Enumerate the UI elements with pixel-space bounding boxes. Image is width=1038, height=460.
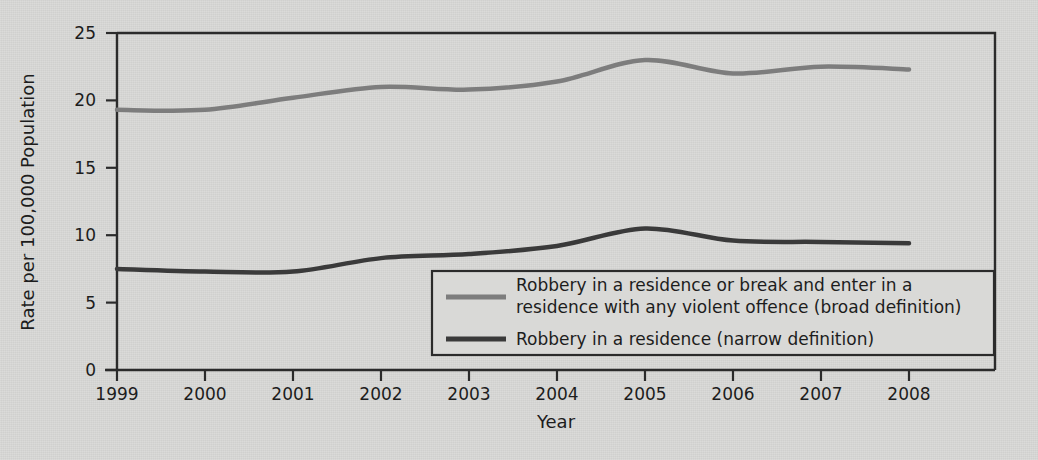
x-tick-label-1999: 1999	[95, 384, 138, 404]
series-line-narrow-definition	[117, 228, 909, 272]
x-axis-tick-labels: 1999 2000 2001 2002 2003 2004 2005 2006 …	[95, 384, 930, 404]
x-axis-title: Year	[536, 411, 576, 432]
x-tick-label-2001: 2001	[271, 384, 314, 404]
y-tick-label-20: 20	[74, 90, 96, 110]
x-tick-label-2006: 2006	[711, 384, 754, 404]
y-tick-label-5: 5	[85, 293, 96, 313]
chart-figure: Rate per 100,000 Population 0 5 10 15 20…	[0, 0, 1038, 460]
x-tick-label-2000: 2000	[183, 384, 226, 404]
y-tick-label-25: 25	[74, 23, 96, 43]
series-line-broad-definition	[117, 60, 909, 111]
y-axis-title: Rate per 100,000 Population	[17, 73, 38, 330]
x-tick-label-2004: 2004	[535, 384, 578, 404]
x-axis-ticks	[117, 370, 909, 381]
y-tick-label-0: 0	[85, 360, 96, 380]
legend-label-broad-definition-line2: residence with any violent offence (broa…	[516, 297, 962, 317]
x-tick-label-2005: 2005	[623, 384, 666, 404]
x-tick-label-2007: 2007	[799, 384, 842, 404]
y-tick-label-10: 10	[74, 225, 96, 245]
x-tick-label-2002: 2002	[359, 384, 402, 404]
x-tick-label-2003: 2003	[447, 384, 490, 404]
line-chart: Rate per 100,000 Population 0 5 10 15 20…	[0, 0, 1038, 460]
y-axis-ticks	[106, 33, 117, 370]
y-axis-tick-labels: 0 5 10 15 20 25	[74, 23, 96, 380]
x-tick-label-2008: 2008	[887, 384, 930, 404]
y-tick-label-15: 15	[74, 158, 96, 178]
legend-label-broad-definition-line1: Robbery in a residence or break and ente…	[516, 275, 912, 295]
chart-legend: Robbery in a residence or break and ente…	[432, 271, 994, 355]
legend-label-narrow-definition: Robbery in a residence (narrow definitio…	[516, 329, 874, 349]
